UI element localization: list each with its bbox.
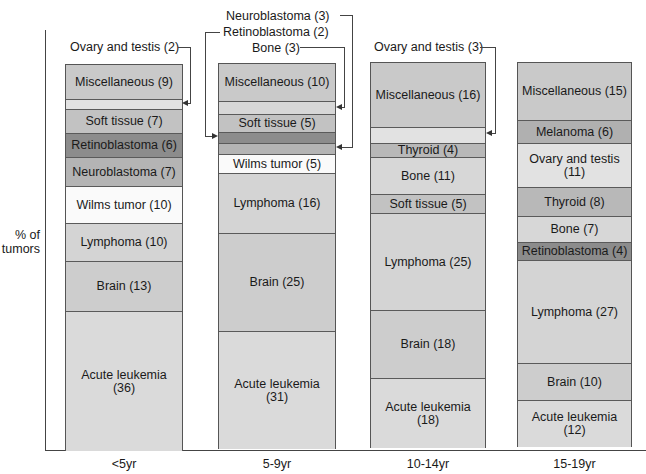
bar-segment: Lymphoma (27) (518, 260, 631, 363)
bar-segment: Miscellaneous (15) (518, 63, 631, 120)
bar-segment: Thyroid (8) (518, 187, 631, 216)
bar-segment: Acute leukemia (12) (518, 400, 631, 447)
x-tick-15-19yr: 15-19yr (517, 457, 632, 471)
bar-segment: Retinoblastoma (4) (518, 242, 631, 260)
bar-segment: Miscellaneous (9) (66, 65, 182, 99)
y-axis-label-line1: % of (0, 228, 40, 242)
y-axis-label-line2: tumors (0, 242, 40, 256)
annotation-b1-ovary-testis: Ovary and testis (2) (70, 40, 179, 54)
bar-segment: Miscellaneous (16) (371, 63, 485, 127)
bar-under-5yr: Miscellaneous (9)Soft tissue (7)Retinobl… (65, 64, 183, 451)
x-tick-10-14yr: 10-14yr (370, 457, 486, 471)
bar-segment: Ovary and testis (11) (518, 143, 631, 187)
x-tick-5-9yr: 5-9yr (218, 457, 336, 471)
bar-segment: Soft tissue (5) (219, 114, 335, 132)
arrow-icon (182, 100, 188, 106)
bar-segment: Miscellaneous (10) (219, 64, 335, 101)
bar-15-19yr: Miscellaneous (15)Melanoma (6)Ovary and … (517, 62, 632, 447)
x-tick-under-5yr: <5yr (65, 457, 183, 471)
leader-line (344, 47, 345, 107)
bar-segment (371, 127, 485, 143)
bar-segment: Thyroid (4) (371, 143, 485, 157)
bar-segment: Brain (18) (371, 310, 485, 378)
bar-segment: Neuroblastoma (7) (66, 157, 182, 186)
bar-segment: Lymphoma (10) (66, 223, 182, 261)
arrow-icon (212, 133, 218, 139)
leader-line (300, 47, 344, 48)
bar-segment: Acute leukemia (18) (371, 378, 485, 448)
bar-segment: Retinoblastoma (6) (66, 133, 182, 157)
bar-segment: Lymphoma (25) (371, 213, 485, 310)
annotation-b3-ovary-testis: Ovary and testis (3) (374, 40, 483, 54)
bar-segment: Wilms tumor (5) (219, 154, 335, 173)
y-axis-line (45, 30, 46, 451)
leader-line (178, 47, 190, 48)
bar-segment: Soft tissue (7) (66, 109, 182, 133)
y-axis-label: % of tumors (0, 228, 40, 256)
bar-segment: Bone (11) (371, 157, 485, 194)
bar-10-14yr: Miscellaneous (16)Thyroid (4)Bone (11)So… (370, 62, 486, 448)
annotation-b2-bone: Bone (3) (252, 41, 300, 55)
bar-5-9yr: Miscellaneous (10)Soft tissue (5)Wilms t… (218, 63, 336, 449)
leader-line (480, 47, 495, 48)
leader-line (352, 15, 353, 148)
annotation-b2-retinoblastoma: Retinoblastoma (2) (223, 25, 329, 39)
leader-line (340, 15, 352, 16)
leader-line (190, 47, 191, 104)
bar-segment: Acute leukemia (31) (219, 331, 335, 449)
bar-segment: Melanoma (6) (518, 120, 631, 143)
leader-line (205, 32, 220, 33)
bar-segment: Lymphoma (16) (219, 173, 335, 233)
bar-segment: Brain (10) (518, 363, 631, 400)
bar-segment: Brain (25) (219, 233, 335, 331)
leader-line (205, 32, 206, 137)
bar-segment (219, 132, 335, 143)
bar-segment: Wilms tumor (10) (66, 186, 182, 223)
leader-line (495, 47, 496, 134)
bar-segment: Bone (7) (518, 216, 631, 242)
bar-segment (66, 99, 182, 109)
arrow-icon (336, 104, 342, 110)
bar-segment (219, 143, 335, 154)
arrow-icon (486, 130, 492, 136)
arrow-icon (336, 144, 342, 150)
annotation-b2-neuroblastoma: Neuroblastoma (3) (226, 9, 330, 23)
bar-segment: Soft tissue (5) (371, 194, 485, 213)
bar-segment: Acute leukemia (36) (66, 311, 182, 451)
stacked-bar-chart: % of tumors Miscellaneous (9)Soft tissue… (0, 0, 646, 474)
bar-segment: Brain (13) (66, 261, 182, 311)
bar-segment (219, 101, 335, 114)
